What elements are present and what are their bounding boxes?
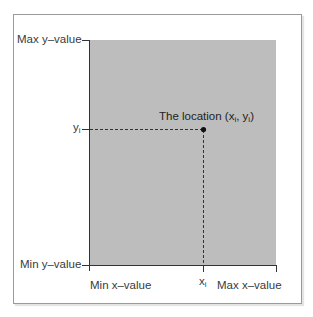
- point-label-suffix: ): [250, 110, 254, 122]
- xi-label: xi: [199, 276, 207, 289]
- x-max-label: Max x–value: [217, 280, 282, 292]
- yi-label: yi: [73, 122, 81, 135]
- point-label-prefix: The location (x: [159, 110, 234, 122]
- y-max-label: Max y–value: [17, 34, 82, 46]
- xi-label-sub: i: [205, 280, 207, 289]
- y-min-label: Min y–value: [20, 259, 81, 271]
- point-location-label: The location (xi, yi): [159, 111, 254, 124]
- x-min-label: Min x–value: [90, 280, 151, 292]
- yi-label-sub: i: [79, 126, 81, 135]
- location-point: [201, 127, 206, 132]
- plot-area: [89, 40, 276, 265]
- point-label-mid: , y: [236, 110, 248, 122]
